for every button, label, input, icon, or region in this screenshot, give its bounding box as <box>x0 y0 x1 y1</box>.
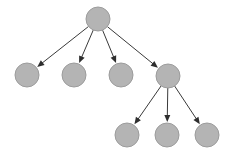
arrowhead-icon <box>193 117 199 124</box>
arrowhead-icon <box>111 55 117 63</box>
edge-root-to-child-3 <box>103 30 117 63</box>
node-grandchild-3 <box>195 123 219 147</box>
edge-child-4-to-grandchild-3 <box>175 86 200 124</box>
node-child-2 <box>62 63 86 87</box>
node-child-1 <box>15 63 39 87</box>
edge-root-to-child-2 <box>79 30 93 63</box>
edge-line <box>81 30 93 58</box>
arrowhead-icon <box>134 117 140 124</box>
tree-diagram <box>0 0 229 153</box>
node-grandchild-1 <box>115 123 139 147</box>
edge-line <box>103 30 114 57</box>
arrowhead-icon <box>151 61 158 68</box>
node-child-3 <box>109 63 133 87</box>
edge-line <box>175 86 197 119</box>
edge-child-4-to-grandchild-2 <box>164 88 170 122</box>
arrowhead-icon <box>37 60 44 67</box>
node-root <box>86 7 110 31</box>
edge-child-4-to-grandchild-1 <box>134 86 161 124</box>
edge-line <box>138 86 161 120</box>
node-child-4 <box>156 64 180 88</box>
node-grandchild-2 <box>155 123 179 147</box>
nodes-layer <box>15 7 219 147</box>
arrowhead-icon <box>164 115 170 122</box>
